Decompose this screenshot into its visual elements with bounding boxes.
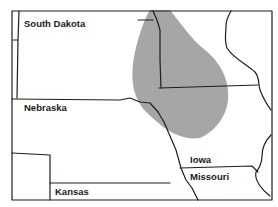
border-sd-west — [13, 11, 19, 98]
border-minnesota-wisconsin — [225, 11, 271, 110]
border-colorado-nebraska — [12, 153, 50, 200]
shaded-region — [132, 10, 228, 138]
state-label-missouri: Missouri — [190, 172, 229, 182]
state-label-nebraska: Nebraska — [24, 103, 67, 113]
border-mississippi-river — [256, 135, 271, 196]
state-label-iowa: Iowa — [190, 155, 211, 165]
state-label-south-dakota: South Dakota — [24, 19, 85, 29]
state-label-kansas: Kansas — [55, 187, 89, 197]
